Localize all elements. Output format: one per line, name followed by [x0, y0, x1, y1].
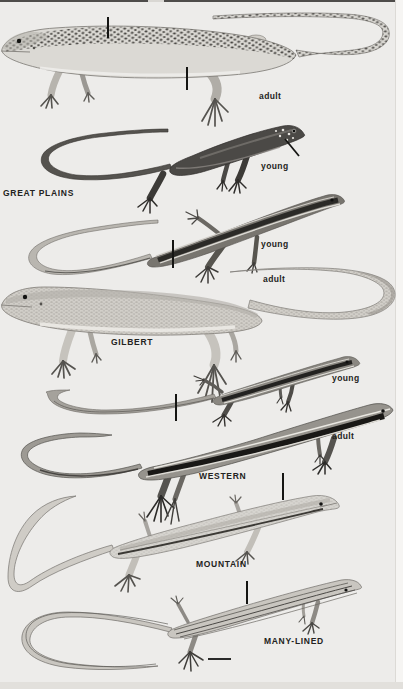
great-plains-skink-adult-illustration	[1, 13, 389, 126]
page-top-edge-gap	[148, 0, 164, 2]
eye	[17, 39, 21, 43]
eye	[330, 198, 333, 201]
page-top-edge	[0, 0, 403, 2]
eye	[346, 361, 349, 364]
stage-label-gilbert-adult: adult	[263, 275, 285, 284]
gilbert-skink-young-illustration	[29, 195, 345, 283]
eye	[23, 295, 27, 299]
species-label-mountain: MOUNTAIN	[196, 560, 247, 569]
species-label-many-lined: MANY-LINED	[264, 637, 324, 646]
eye	[344, 588, 347, 591]
eye	[381, 409, 385, 413]
stage-label-great-plains-young: young	[261, 162, 289, 171]
many-lined-skink-illustration	[22, 580, 362, 671]
species-label-western: WESTERN	[199, 472, 246, 481]
page-bottom-shadow	[0, 682, 403, 689]
stage-label-western-young: young	[332, 374, 360, 383]
plate-artwork-canvas	[0, 0, 403, 689]
stage-label-western-adult: adult	[332, 432, 354, 441]
western-skink-young-illustration	[46, 357, 360, 426]
stage-label-gilbert-young: young	[261, 240, 289, 249]
eye	[319, 502, 323, 506]
eye	[292, 129, 296, 133]
stage-label-great-plains-adult: adult	[259, 92, 281, 101]
species-label-gilbert: GILBERT	[111, 338, 153, 347]
page-right-margin	[396, 0, 403, 689]
species-label-great-plains: GREAT PLAINS	[3, 189, 74, 198]
field-guide-skink-plate: adult young GREAT PLAINS young adult GIL…	[0, 0, 403, 689]
